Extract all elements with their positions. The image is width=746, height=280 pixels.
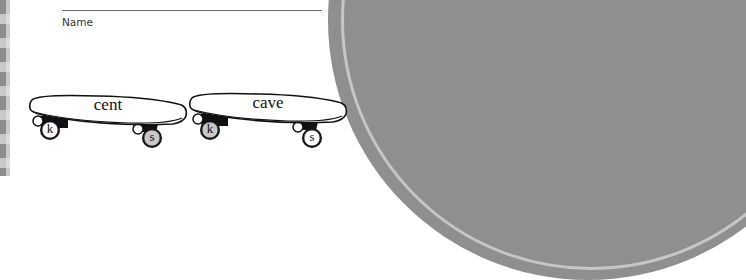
skateboard-word: cave <box>228 93 308 113</box>
name-label: Name <box>62 16 93 28</box>
page-edge-stripes <box>0 0 10 176</box>
skateboard-cave: cave k s <box>188 92 348 152</box>
front-wheel-letter[interactable]: k <box>40 121 60 137</box>
name-write-line[interactable] <box>62 10 322 11</box>
decorative-arc-stripe <box>341 0 746 270</box>
front-wheel-letter[interactable]: k <box>200 121 220 137</box>
back-wheel-letter[interactable]: s <box>302 129 322 145</box>
skateboard-word: cent <box>68 95 148 115</box>
back-wheel-letter[interactable]: s <box>142 129 162 145</box>
skateboard-cent: cent k s <box>28 94 188 154</box>
